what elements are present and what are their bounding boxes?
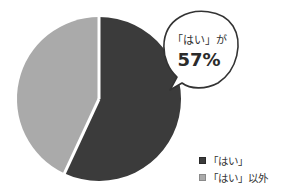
legend-label-other: 「はい」以外 <box>208 170 268 185</box>
callout-label: 「はい」が <box>161 31 237 47</box>
callout-percentage: 57% <box>161 49 237 70</box>
legend-swatch-other <box>199 174 206 181</box>
legend-label-yes: 「はい」 <box>208 153 248 168</box>
pie <box>17 16 181 181</box>
legend: 「はい」 「はい」以外 <box>199 152 268 186</box>
legend-item-yes: 「はい」 <box>199 152 268 169</box>
legend-swatch-yes <box>199 157 206 164</box>
legend-item-other: 「はい」以外 <box>199 169 268 186</box>
